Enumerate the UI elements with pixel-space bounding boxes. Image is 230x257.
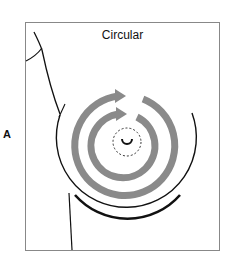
arm-contour (34, 32, 60, 114)
areola (113, 128, 141, 156)
nipple (122, 139, 132, 144)
armpit-line (26, 48, 42, 61)
diagram-title: Circular (25, 28, 220, 42)
frame (26, 23, 220, 251)
torso-line (69, 193, 72, 250)
